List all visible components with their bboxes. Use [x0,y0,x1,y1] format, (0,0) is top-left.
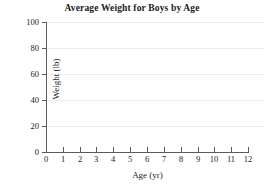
x-tick-label-7: 7 [155,155,173,164]
chart-figure: Average Weight for Boys by Age Weight (l… [0,0,264,191]
plot-area: Weight (lb) [46,22,248,152]
y-tick-label-60: 60 [17,70,39,79]
y-tick-label-40: 40 [17,96,39,105]
x-tick-0 [46,147,47,152]
x-tick-label-5: 5 [121,155,139,164]
x-tick-label-3: 3 [87,155,105,164]
x-tick-10 [214,147,215,152]
gridline-20 [46,126,264,127]
x-tick-label-10: 10 [205,155,223,164]
x-tick-5 [130,147,131,152]
x-tick-3 [96,147,97,152]
x-tick-7 [164,147,165,152]
gridline-100 [46,22,264,23]
x-tick-11 [231,147,232,152]
x-tick-6 [147,147,148,152]
chart-title: Average Weight for Boys by Age [0,3,264,14]
y-axis-line [46,22,47,153]
x-tick-2 [80,147,81,152]
gridline-40 [46,100,264,101]
x-axis-title: Age (yr) [46,170,249,180]
x-tick-4 [113,147,114,152]
y-tick-label-100: 100 [17,18,39,27]
x-tick-9 [198,147,199,152]
y-tick-0 [42,152,46,153]
x-tick-1 [63,147,64,152]
x-tick-label-4: 4 [104,155,122,164]
gridline-60 [46,74,264,75]
x-tick-label-12: 12 [239,155,257,164]
y-tick-60 [42,74,46,75]
gridline-80 [46,48,264,49]
y-tick-20 [42,126,46,127]
x-tick-label-6: 6 [138,155,156,164]
x-tick-label-1: 1 [54,155,72,164]
y-tick-label-0: 0 [17,148,39,157]
y-tick-80 [42,48,46,49]
x-tick-label-11: 11 [222,155,240,164]
x-tick-8 [181,147,182,152]
x-tick-12 [248,147,249,152]
x-axis-line [46,152,249,153]
y-tick-label-20: 20 [17,122,39,131]
y-tick-100 [42,22,46,23]
x-tick-label-8: 8 [172,155,190,164]
y-tick-40 [42,100,46,101]
x-tick-label-0: 0 [37,155,55,164]
y-tick-label-80: 80 [17,44,39,53]
y-axis-title: Weight (lb) [51,37,61,121]
